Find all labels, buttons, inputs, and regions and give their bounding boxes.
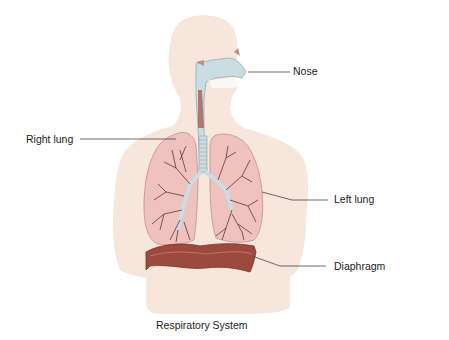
label-diaphragm: Diaphragm	[334, 261, 385, 272]
respiratory-diagram: Nose Right lung Left lung Diaphragm Resp…	[0, 0, 449, 340]
label-right-lung: Right lung	[26, 134, 73, 145]
anatomy-illustration	[0, 0, 449, 340]
label-left-lung: Left lung	[334, 194, 374, 205]
label-nose: Nose	[293, 66, 318, 77]
diagram-caption: Respiratory System	[156, 320, 248, 331]
